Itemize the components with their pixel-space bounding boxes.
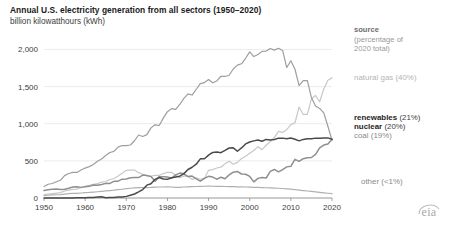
legend-pct-renewables: (21%) <box>399 113 420 122</box>
x-tick-label: 1990 <box>200 203 218 212</box>
x-tick-label: 2010 <box>282 203 300 212</box>
eia-logo: eia <box>414 200 444 222</box>
x-tick-label: 1970 <box>117 203 135 212</box>
x-tick-label: 1950 <box>35 203 53 212</box>
legend-pct-natural-gas: (40%) <box>395 73 416 82</box>
y-tick-label: 500 <box>4 157 38 166</box>
legend-label-coal: coal <box>354 131 369 140</box>
legend-subtitle-line1: (percentage of <box>354 35 449 45</box>
x-axis: 19501960197019801990200020102020 <box>44 200 332 216</box>
legend-label-other: other <box>361 177 379 186</box>
legend-item-coal[interactable]: coal (19%) <box>354 131 392 141</box>
eia-logo-text: eia <box>414 205 444 220</box>
series-line-other <box>44 186 332 195</box>
legend-item-other[interactable]: other (<1%) <box>361 177 403 187</box>
x-tick-label: 1960 <box>76 203 94 212</box>
legend-title: source <box>354 25 449 35</box>
y-tick-label: 0 <box>4 194 38 203</box>
legend-subtitle: (percentage of 2020 total) <box>354 35 449 54</box>
legend-label-renewables: renewables <box>354 113 397 122</box>
x-tick-label: 2000 <box>241 203 259 212</box>
plot-svg <box>44 42 332 198</box>
series-line-coal <box>44 48 332 186</box>
legend-pct-coal: (19%) <box>371 131 392 140</box>
page-title: Annual U.S. electricity generation from … <box>10 5 261 15</box>
legend-label-natural-gas: natural gas <box>354 73 393 82</box>
series-line-renewables <box>44 139 332 190</box>
chart-subtitle: billion kilowatthours (kWh) <box>10 17 105 26</box>
legend-subtitle-line2: 2020 total) <box>354 44 449 54</box>
legend-label-nuclear: nuclear <box>354 122 382 131</box>
y-axis: 05001,0001,5002,000 <box>0 42 38 198</box>
plot-area <box>44 42 332 198</box>
y-tick-label: 1,500 <box>4 83 38 92</box>
legend-pct-nuclear: (20%) <box>384 122 405 131</box>
chart-figure: Annual U.S. electricity generation from … <box>0 0 449 229</box>
x-tick-label: 2020 <box>323 203 341 212</box>
legend-item-natural-gas[interactable]: natural gas (40%) <box>354 73 417 83</box>
x-tick-label: 1980 <box>159 203 177 212</box>
legend-pct-other: (<1%) <box>381 177 402 186</box>
y-tick-label: 1,000 <box>4 120 38 129</box>
legend: source (percentage of 2020 total) natura… <box>354 25 449 54</box>
y-tick-label: 2,000 <box>4 45 38 54</box>
